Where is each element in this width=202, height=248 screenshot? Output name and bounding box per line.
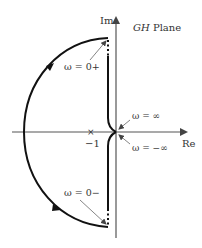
real-axis-label: Re (182, 138, 196, 149)
nyquist-plot: × −1 Im Re GH Plane ω = 0+ ω = 0− ω = ∞ … (0, 0, 202, 248)
omega-infinity-leader (119, 120, 130, 129)
critical-point-label: −1 (85, 138, 100, 149)
omega-zero-minus-leader (80, 200, 106, 224)
omega-zero-plus-label: ω = 0+ (64, 61, 100, 72)
critical-point-marker: × (87, 127, 95, 137)
omega-neg-infinity-label: ω = −∞ (132, 143, 168, 153)
omega-zero-plus-leader (90, 41, 106, 60)
plane-title: GH Plane (133, 22, 181, 33)
omega-zero-minus-label: ω = 0− (64, 187, 100, 198)
omega-neg-infinity-leader (119, 135, 130, 144)
imaginary-axis-label: Im (100, 15, 114, 26)
nyquist-lower-branch (108, 132, 116, 209)
nyquist-upper-branch (108, 56, 116, 132)
omega-infinity-label: ω = ∞ (132, 111, 160, 121)
